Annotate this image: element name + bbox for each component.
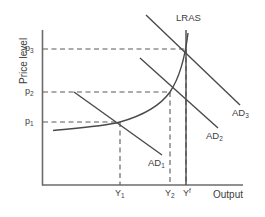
sras-curve: [53, 33, 188, 131]
ad3-label: AD3: [232, 108, 249, 118]
ad-as-diagram: Price level Output p3 p2 p1 Y1 Y2 Yf LRA…: [0, 0, 265, 217]
x-tick-y1: Y1: [115, 189, 125, 198]
x-tick-y2-sub: 2: [171, 192, 175, 199]
ad1-label-base: AD: [148, 157, 161, 168]
x-axis-title: Output: [213, 190, 243, 200]
ad1-label-sub: 1: [161, 162, 165, 169]
ad2-label-sub: 2: [219, 135, 223, 142]
ad2-label-base: AD: [206, 130, 219, 141]
x-tick-y2: Y2: [165, 189, 175, 198]
ad3-label-sub: 3: [245, 112, 249, 119]
y-tick-p1: p1: [25, 117, 34, 126]
y-tick-p1-sub: 1: [30, 120, 34, 127]
ad3-label-base: AD: [232, 107, 245, 118]
y-tick-p3: p3: [25, 44, 34, 53]
ad3-curve: [146, 15, 240, 105]
lras-label-base: LRAS: [176, 12, 201, 23]
ad2-label: AD2: [206, 131, 223, 141]
x-tick-yf-sup: f: [189, 187, 191, 194]
diagram-canvas: [0, 0, 265, 217]
y-tick-p2-sub: 2: [30, 90, 34, 97]
y-tick-p2: p2: [25, 87, 34, 96]
x-tick-y1-sub: 1: [121, 192, 125, 199]
ad1-label: AD1: [148, 158, 165, 168]
ad2-curve: [140, 58, 218, 128]
x-tick-yf: Yf: [183, 189, 191, 198]
ad1-curve: [74, 92, 162, 155]
lras-label: LRAS: [176, 13, 201, 23]
y-tick-p3-sub: 3: [30, 47, 34, 54]
